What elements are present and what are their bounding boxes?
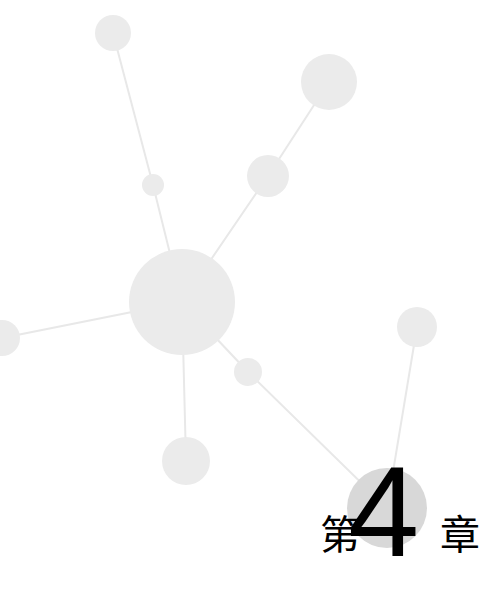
right-node bbox=[397, 307, 437, 347]
small-upper-node bbox=[142, 174, 164, 196]
small-lower-node bbox=[234, 358, 262, 386]
chapter-divider-page: 第 4 章 bbox=[0, 0, 498, 599]
top-right-large-node bbox=[301, 54, 357, 110]
upper-middle-node bbox=[247, 155, 289, 197]
left-edge-node bbox=[0, 320, 20, 356]
central-hub-node bbox=[129, 249, 235, 355]
graph-edge bbox=[113, 33, 153, 185]
bottom-left-node bbox=[162, 437, 210, 485]
graph-node-layer bbox=[0, 15, 437, 548]
chapter-number-node bbox=[347, 468, 427, 548]
top-left-node bbox=[95, 15, 131, 51]
network-graph bbox=[0, 0, 498, 599]
